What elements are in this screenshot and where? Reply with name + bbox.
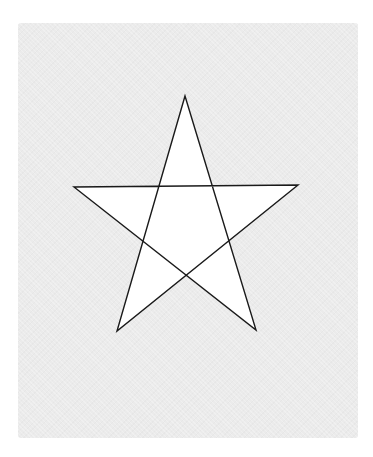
star-icon (0, 0, 373, 457)
figure-canvas (0, 0, 373, 457)
